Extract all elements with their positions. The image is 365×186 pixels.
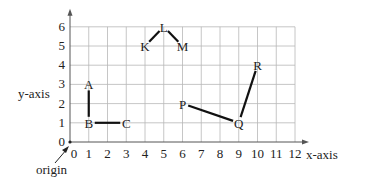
point-M-label: M [177, 39, 189, 54]
x-tick-label: 12 [289, 146, 302, 161]
y-axis-arrow-icon [68, 9, 73, 16]
x-tick-label: 10 [251, 146, 264, 161]
x-tick-label: 2 [104, 146, 111, 161]
segment-KL [149, 31, 159, 42]
y-axis-label: y-axis [18, 86, 50, 101]
segment-PQ [188, 106, 233, 121]
origin-dot [68, 140, 71, 143]
y-tick-label: 0 [59, 134, 66, 149]
x-tick-label: 11 [270, 146, 283, 161]
x-tick-label: 8 [217, 146, 224, 161]
point-A-label: A [84, 77, 94, 92]
origin-label: origin [36, 162, 68, 177]
point-Q-label: Q [234, 116, 244, 131]
point-K-label: K [140, 39, 150, 54]
y-tick-label: 6 [59, 19, 66, 34]
x-axis-label: x-axis [306, 147, 338, 162]
x-tick-label: 1 [86, 146, 93, 161]
point-C-label: C [122, 116, 131, 131]
x-tick-label: 3 [123, 146, 130, 161]
x-tick-label: 6 [179, 146, 186, 161]
y-tick-label: 2 [59, 96, 66, 111]
y-tick-label: 1 [59, 115, 66, 130]
line-segments [89, 31, 256, 123]
y-tick-label: 5 [59, 38, 66, 53]
x-tick-label: 5 [161, 146, 168, 161]
point-R-label: R [253, 58, 262, 73]
x-tick-label: 9 [236, 146, 243, 161]
x-tick-label: 7 [198, 146, 205, 161]
y-tick-label: 4 [59, 57, 66, 72]
point-B-label: B [84, 116, 93, 131]
segment-QR [241, 71, 256, 117]
y-tick-label: 3 [59, 76, 66, 91]
coordinate-plane: 01234567891011120123456 ABCKLMPQR x-axis… [0, 0, 365, 186]
x-tick-label: 4 [142, 146, 149, 161]
axes [68, 9, 310, 145]
point-P-label: P [179, 97, 186, 112]
x-axis-arrow-icon [302, 140, 309, 145]
x-tick-label: 0 [71, 146, 78, 161]
point-L-label: L [160, 20, 168, 35]
